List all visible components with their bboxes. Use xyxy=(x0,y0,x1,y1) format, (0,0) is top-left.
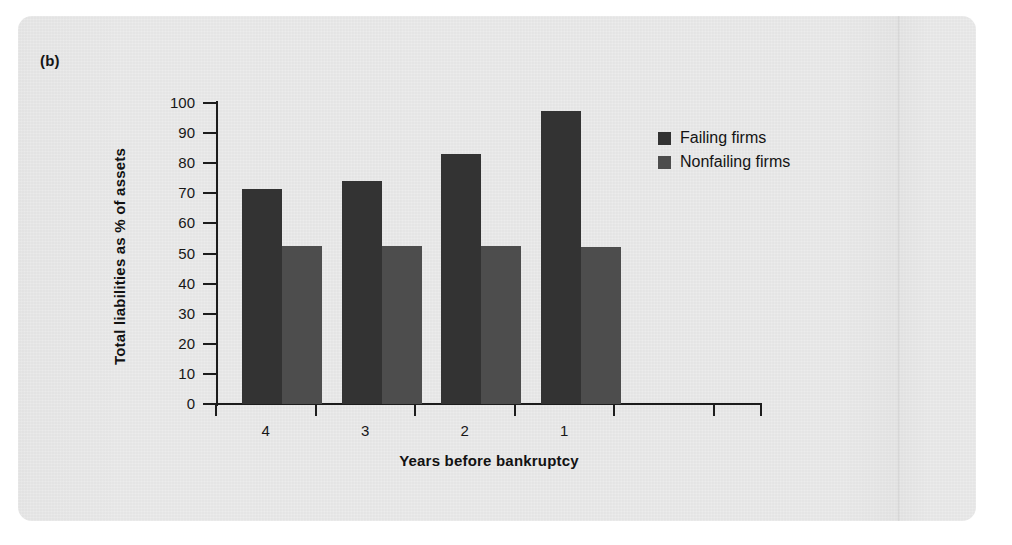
y-axis-tick-label: 100 xyxy=(149,95,195,110)
x-axis-tick xyxy=(215,404,217,416)
legend-item: Failing firms xyxy=(658,126,790,150)
x-axis-tick xyxy=(613,404,615,416)
bar xyxy=(342,181,382,404)
x-axis-tick xyxy=(713,404,715,416)
legend-label: Failing firms xyxy=(680,129,766,147)
y-axis-tick xyxy=(203,102,216,104)
x-axis-tick-label: 1 xyxy=(534,422,594,439)
y-axis-tick xyxy=(203,162,216,164)
y-axis-tick xyxy=(203,192,216,194)
x-axis-tick-label: 2 xyxy=(435,422,495,439)
y-axis-tick xyxy=(203,283,216,285)
y-axis-tick-label: 10 xyxy=(149,366,195,381)
x-axis-tick xyxy=(414,404,416,416)
x-axis-tick-label: 4 xyxy=(236,422,296,439)
bar xyxy=(581,247,621,404)
bar xyxy=(382,246,422,404)
y-axis-tick xyxy=(203,373,216,375)
y-axis-tick xyxy=(203,253,216,255)
y-axis-tick-label: 30 xyxy=(149,306,195,321)
y-axis-title: Total liabilities as % of assets xyxy=(111,102,128,412)
x-axis-tick xyxy=(315,404,317,416)
x-axis-title: Years before bankruptcy xyxy=(216,452,762,469)
y-axis-tick xyxy=(203,313,216,315)
y-axis-tick-label: 90 xyxy=(149,125,195,140)
legend-item: Nonfailing firms xyxy=(658,150,790,174)
bar xyxy=(441,154,481,404)
y-axis-tick xyxy=(203,132,216,134)
bar-chart-plot: 0102030405060708090100 4321 Years before… xyxy=(0,0,1012,545)
legend-label: Nonfailing firms xyxy=(680,153,790,171)
legend-swatch-icon xyxy=(658,132,671,145)
y-axis-tick xyxy=(203,343,216,345)
chart-legend: Failing firmsNonfailing firms xyxy=(658,126,790,174)
bar xyxy=(242,189,282,404)
x-axis-tick xyxy=(514,404,516,416)
y-axis-tick-label: 0 xyxy=(149,396,195,411)
bar xyxy=(481,246,521,404)
x-axis-tick-label: 3 xyxy=(335,422,395,439)
y-axis-tick-label: 70 xyxy=(149,185,195,200)
x-axis-end-tick xyxy=(760,404,762,416)
legend-swatch-icon xyxy=(658,156,671,169)
bar xyxy=(541,111,581,404)
bar xyxy=(282,246,322,404)
y-axis-tick-label: 50 xyxy=(149,246,195,261)
y-axis-tick-label: 40 xyxy=(149,276,195,291)
y-axis-tick-label: 80 xyxy=(149,155,195,170)
y-axis-tick xyxy=(203,222,216,224)
y-axis-line xyxy=(216,101,218,406)
figure-root: (b) 0102030405060708090100 4321 Years be… xyxy=(0,0,1012,545)
y-axis-tick-label: 60 xyxy=(149,215,195,230)
y-axis-tick-label: 20 xyxy=(149,336,195,351)
